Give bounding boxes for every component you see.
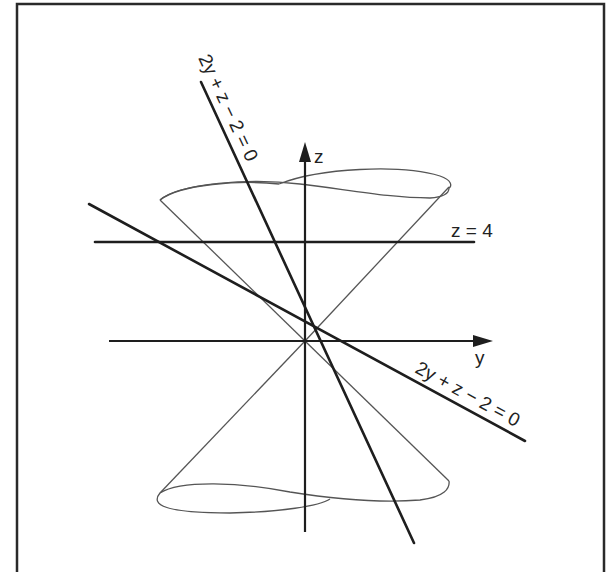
cone-lower-left-edge [160,341,305,493]
cone-lower [157,341,449,513]
frame-border [17,4,604,572]
plane-steep-label: 2y + z − 2 = 0 [194,51,262,165]
cone-upper-right-edge [305,187,449,341]
plane-z4-label: z = 4 [451,220,493,241]
z-axis-arrowhead [299,142,311,162]
y-axis-label: y [475,347,485,368]
diagram-figure: z y z = 4 2y + z − 2 = 0 2y + z − 2 = 0 [0,0,607,572]
cone-upper-rim-left [160,183,279,200]
y-axis-arrowhead [473,335,493,347]
plane-shallow-label: 2y + z − 2 = 0 [412,357,524,431]
cone-upper-left-edge [160,200,305,341]
z-axis-label: z [314,146,324,167]
